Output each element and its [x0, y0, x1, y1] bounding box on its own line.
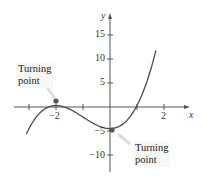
turning-point-max-marker	[53, 98, 58, 103]
callout-leader-min	[118, 134, 130, 144]
y-tick-label-5: 5	[85, 77, 105, 87]
turning-point-min-marker	[109, 127, 114, 132]
x-axis-label: x	[189, 110, 193, 120]
callout-turning-point-max: Turning point	[16, 62, 53, 88]
x-tick-label-neg2: −2	[49, 111, 60, 121]
callout-text-line2: point	[135, 154, 168, 166]
y-axis-arrow-icon	[108, 13, 112, 19]
y-tick-label-neg5: −5	[85, 126, 105, 136]
callout-text-line2: point	[18, 75, 51, 87]
y-axis-label: y	[101, 11, 105, 21]
y-tick-label-neg10: −10	[85, 150, 105, 160]
callout-text-line1: Turning	[18, 63, 51, 75]
y-tick-label-10: 10	[85, 53, 105, 63]
y-tick-label-15: 15	[85, 29, 105, 39]
x-tick-label-2: 2	[161, 111, 166, 121]
callout-text-line1: Turning	[135, 142, 168, 154]
callout-turning-point-min: Turning point	[133, 141, 170, 167]
